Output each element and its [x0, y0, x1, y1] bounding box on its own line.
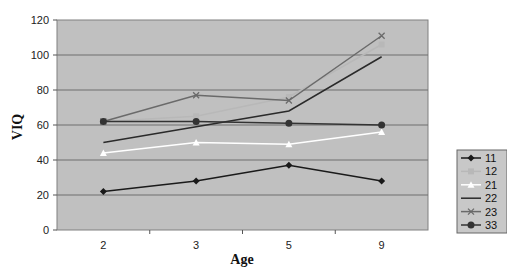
y-tick-label: 0	[43, 224, 49, 236]
y-tick-label: 20	[37, 189, 49, 201]
circle-marker	[100, 118, 107, 125]
legend-label: 12	[485, 165, 497, 177]
y-axis-title: VIQ	[10, 114, 25, 141]
y-tick-label: 80	[37, 84, 49, 96]
y-tick-label: 40	[37, 154, 49, 166]
circle-marker	[468, 222, 475, 229]
legend-label: 11	[485, 152, 496, 164]
square-marker	[379, 42, 385, 48]
y-tick-label: 120	[31, 14, 49, 26]
x-axis-title: Age	[230, 252, 253, 267]
legend-label: 33	[485, 219, 497, 231]
line-chart: 020406080100120 2359 Age VIQ 11122122233…	[0, 0, 507, 280]
y-tick-label: 60	[37, 119, 49, 131]
x-tick-label: 5	[286, 239, 292, 251]
y-axis-ticks: 020406080100120	[31, 14, 57, 236]
x-tick-label: 2	[100, 239, 106, 251]
circle-marker	[285, 120, 292, 127]
square-marker	[468, 168, 474, 174]
circle-marker	[193, 118, 200, 125]
x-axis-ticks: 2359	[100, 230, 384, 251]
x-tick-label: 3	[193, 239, 199, 251]
circle-marker	[378, 122, 385, 129]
legend-label: 21	[485, 179, 497, 191]
y-tick-label: 100	[31, 49, 49, 61]
legend-label: 22	[485, 192, 497, 204]
legend: 111221222333	[457, 150, 507, 233]
legend-label: 23	[485, 206, 497, 218]
legend-box	[457, 150, 507, 233]
x-tick-label: 9	[379, 239, 385, 251]
